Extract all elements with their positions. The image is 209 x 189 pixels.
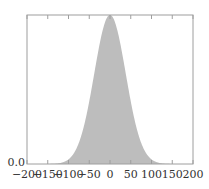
- x-tick-label: 50: [124, 168, 138, 181]
- x-tick-label: 150: [162, 168, 183, 181]
- y-axis-tick-label: 0.0: [8, 156, 26, 169]
- x-tick-label: 100: [141, 168, 162, 181]
- x-axis-tick-labels: −200−150−100−50050100150200: [12, 168, 204, 181]
- gaussian-fill: [27, 15, 193, 164]
- x-tick-label: −50: [78, 168, 101, 181]
- distribution-area: [27, 15, 193, 164]
- x-tick-label: 0: [107, 168, 114, 181]
- histogram-chart: −200−150−100−50050100150200 0.0: [0, 0, 209, 189]
- x-tick-label: 200: [183, 168, 204, 181]
